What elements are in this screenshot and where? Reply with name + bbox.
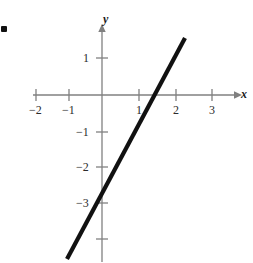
x-tick-label--1: −1: [62, 104, 75, 116]
y-tick-label--2: −2: [76, 161, 89, 173]
plotted-line: [67, 38, 185, 259]
x-tick-label--2: −2: [29, 104, 42, 116]
y-tick-label--3: −3: [76, 197, 89, 209]
graph-figure: −2 −1 1 2 3 1 −1 −2 −3 y x: [0, 0, 253, 263]
x-axis: [33, 91, 242, 98]
y-tick-label--1: −1: [76, 126, 89, 138]
y-axis: [98, 24, 105, 262]
y-axis-label: y: [103, 13, 108, 25]
x-tick-label-1: 1: [136, 104, 142, 116]
y-tick-label-1: 1: [83, 52, 89, 64]
x-axis-label: x: [241, 88, 247, 100]
x-tick-label-3: 3: [209, 104, 215, 116]
x-tick-label-2: 2: [173, 104, 179, 116]
coordinate-plane-svg: [0, 0, 253, 263]
